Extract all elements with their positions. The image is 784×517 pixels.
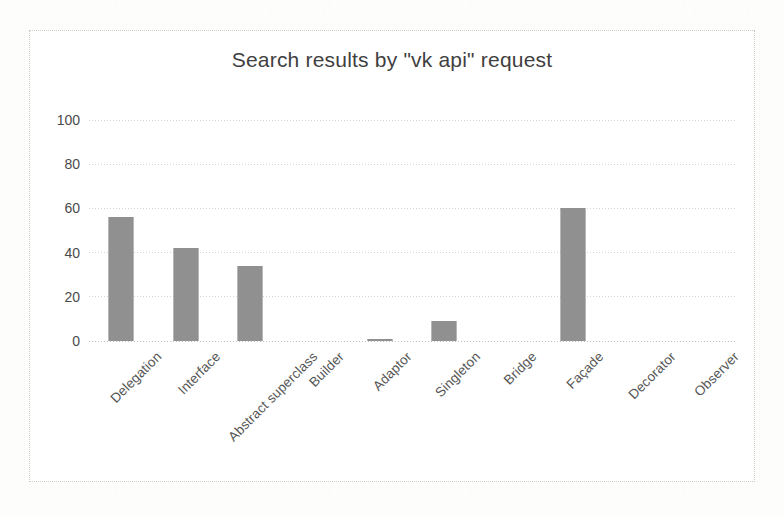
x-label-slot: Observer [670,343,735,473]
x-tick-label: Façade [564,349,607,392]
bar-slot [154,120,219,341]
x-tick-label: Interface [175,349,223,397]
y-tick-label: 60 [44,201,80,215]
x-label-slot: Builder [283,343,348,473]
bar [109,217,134,341]
bar [432,321,457,341]
bar-slot [283,120,348,341]
x-label-slot: Interface [154,343,219,473]
scanned-page: Search results by "vk api" request 02040… [0,0,784,517]
bar-slot [541,120,606,341]
x-label-slot: Adaptor [347,343,412,473]
bar-slot [477,120,542,341]
x-label-slot: Singleton [412,343,477,473]
bar-slot [606,120,671,341]
chart-title: Search results by "vk api" request [30,48,754,72]
x-label-slot: Decorator [606,343,671,473]
y-tick-label: 0 [44,334,80,348]
y-axis: 020406080100 [40,120,80,341]
bar [173,248,198,341]
x-tick-label: Adaptor [370,349,415,394]
bar-slot [89,120,154,341]
y-tick-label: 20 [44,290,80,304]
x-label-slot: Bridge [477,343,542,473]
x-label-slot: Abstract superclass [218,343,283,473]
y-tick-label: 80 [44,157,80,171]
x-axis-category-labels: DelegationInterfaceAbstract superclassBu… [89,343,735,473]
y-tick-label: 100 [44,113,80,127]
bar-slot [670,120,735,341]
x-tick-label: Observer [691,349,741,399]
chart-frame: Search results by "vk api" request 02040… [29,30,755,482]
x-tick-label: Bridge [501,349,540,388]
plot-area [89,120,735,341]
x-tick-label: Builder [306,349,347,390]
y-tick-label: 40 [44,246,80,260]
bar-slot [218,120,283,341]
bar-slot [347,120,412,341]
bar [561,208,586,341]
bar [238,266,263,341]
bar-slot [412,120,477,341]
x-label-slot: Façade [541,343,606,473]
bar [367,339,392,341]
x-label-slot: Delegation [89,343,154,473]
